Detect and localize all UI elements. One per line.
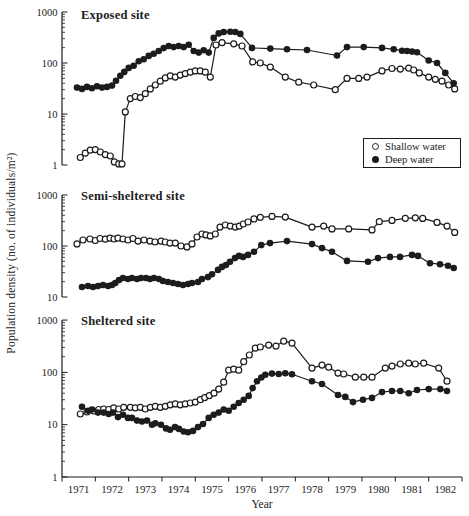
series-deep-water xyxy=(79,238,457,291)
data-point-filled xyxy=(342,394,349,401)
data-point-filled xyxy=(390,46,397,53)
x-tick-label: 1972 xyxy=(101,483,123,495)
data-point-filled xyxy=(437,386,444,393)
data-point-filled xyxy=(267,45,274,52)
data-point-filled xyxy=(209,271,216,278)
data-point-filled xyxy=(251,249,258,256)
data-point-open xyxy=(444,223,450,229)
data-point-open xyxy=(402,215,408,221)
data-point-open xyxy=(207,74,213,80)
data-point-filled xyxy=(415,253,422,260)
data-point-filled xyxy=(379,45,386,52)
data-point-filled xyxy=(379,389,386,396)
x-tick-label: 1980 xyxy=(368,483,390,495)
data-point-filled xyxy=(442,70,449,77)
data-point-filled xyxy=(319,381,326,388)
data-point-open xyxy=(434,219,440,225)
data-point-filled xyxy=(360,396,367,403)
data-point-open xyxy=(412,215,418,221)
data-point-open xyxy=(121,404,127,410)
data-point-filled xyxy=(79,404,86,411)
data-point-filled xyxy=(249,45,256,52)
data-point-open xyxy=(282,214,288,220)
data-point-filled xyxy=(360,44,367,51)
data-point-filled xyxy=(329,249,336,256)
data-point-open xyxy=(311,82,317,88)
series-deep-water xyxy=(79,370,451,436)
data-point-open xyxy=(332,87,338,93)
data-point-open xyxy=(356,75,362,81)
data-point-open xyxy=(178,243,184,249)
data-point-filled xyxy=(189,280,196,287)
data-point-open xyxy=(432,76,438,82)
data-point-open xyxy=(452,86,458,92)
data-point-open xyxy=(369,227,375,233)
legend-item-deep-water: Deep water xyxy=(372,153,460,166)
data-point-open xyxy=(346,226,352,232)
x-tick-label: 1971 xyxy=(68,483,90,495)
data-point-filled xyxy=(450,80,457,87)
data-point-open xyxy=(326,364,332,370)
legend-label-deep: Deep water xyxy=(385,153,434,166)
data-point-open xyxy=(281,338,287,344)
y-tick-label: 1000 xyxy=(37,190,58,201)
data-point-filled xyxy=(245,252,252,259)
y-tick-label: 10 xyxy=(47,292,58,303)
legend: Shallow water Deep water xyxy=(363,138,461,168)
data-point-open xyxy=(77,155,83,161)
data-point-open xyxy=(426,74,432,80)
data-point-filled xyxy=(205,49,212,56)
data-point-open xyxy=(319,362,325,368)
data-point-open xyxy=(273,343,279,349)
data-point-open xyxy=(364,74,370,80)
data-point-open xyxy=(420,215,426,221)
data-point-filled xyxy=(437,261,444,268)
panel-title-sheltered-site: Sheltered site xyxy=(81,314,155,329)
panel-semi-sheltered-site: 100010010 xyxy=(37,190,458,303)
data-point-filled xyxy=(210,35,217,42)
x-tick-label: 1977 xyxy=(268,483,290,495)
data-point-filled xyxy=(199,276,206,283)
x-tick-label: 1982 xyxy=(435,483,457,495)
panel-title-exposed-site: Exposed site xyxy=(81,8,150,23)
data-point-open xyxy=(376,219,382,225)
data-point-filled xyxy=(405,390,412,397)
panel-sheltered-site: 1000100101 xyxy=(37,315,451,483)
data-point-open xyxy=(236,367,242,373)
x-axis-label: Year xyxy=(62,498,462,510)
data-point-open xyxy=(216,386,222,392)
data-point-filled xyxy=(425,386,432,393)
x-tick-label: 1981 xyxy=(401,483,423,495)
figure-svg: 1000100101100010010100010010119711972197… xyxy=(0,0,469,516)
data-point-open xyxy=(436,365,442,371)
data-point-open xyxy=(74,241,80,247)
data-point-open xyxy=(439,78,445,84)
data-point-open xyxy=(269,213,275,219)
data-point-open xyxy=(335,370,341,376)
data-point-open xyxy=(241,359,247,365)
data-point-open xyxy=(416,70,422,76)
data-point-filled xyxy=(427,260,434,267)
data-point-filled xyxy=(387,254,394,261)
data-point-open xyxy=(257,344,263,350)
data-point-open xyxy=(239,43,245,49)
y-tick-label: 10 xyxy=(47,419,58,430)
data-point-open xyxy=(406,360,412,366)
data-point-open xyxy=(344,75,350,81)
y-tick-label: 1 xyxy=(52,160,57,171)
figure: 1000100101100010010100010010119711972197… xyxy=(0,0,469,516)
data-point-filled xyxy=(284,238,291,245)
data-point-filled xyxy=(389,388,396,395)
data-point-filled xyxy=(237,31,244,38)
data-point-filled xyxy=(89,406,96,413)
data-point-filled xyxy=(269,370,276,377)
data-point-filled xyxy=(334,52,341,59)
data-point-filled xyxy=(249,385,256,392)
data-point-filled xyxy=(152,420,159,427)
data-point-open xyxy=(221,379,227,385)
data-point-open xyxy=(80,237,86,243)
data-point-open xyxy=(202,69,208,75)
x-tick-label: 1975 xyxy=(201,483,223,495)
data-point-open xyxy=(341,371,347,377)
x-tick-label: 1976 xyxy=(235,483,257,495)
